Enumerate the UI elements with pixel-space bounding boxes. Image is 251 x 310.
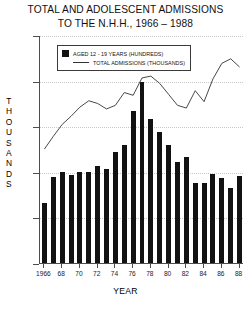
- x-tick-label: 78: [146, 270, 153, 277]
- chart-legend: AGED 12 - 19 YEARS (HUNDREDS) TOTAL ADMI…: [57, 45, 191, 71]
- y-tick-mark: [33, 127, 39, 128]
- x-tick-mark: [114, 264, 115, 268]
- y-tick-mark: [33, 82, 39, 83]
- x-tick-mark: [239, 264, 240, 268]
- y-axis-label-char: H: [3, 106, 15, 116]
- x-tick-mark: [168, 264, 169, 268]
- x-tick-mark: [61, 264, 62, 268]
- x-tick-mark: [132, 264, 133, 268]
- y-axis-label-char: U: [3, 127, 15, 137]
- x-tick-mark: [43, 264, 44, 268]
- y-axis-label-char: D: [3, 169, 15, 179]
- legend-label-line: TOTAL ADMISSIONS (THOUSANDS): [93, 60, 185, 66]
- y-axis-label-char: A: [3, 148, 15, 158]
- x-tick-label: 88: [235, 270, 242, 277]
- x-tick-mark: [221, 264, 222, 268]
- legend-label-bars: AGED 12 - 19 YEARS (HUNDREDS): [73, 51, 163, 57]
- legend-line-icon: [73, 62, 89, 63]
- x-tick-mark: [79, 264, 80, 268]
- x-tick-label: 76: [128, 270, 135, 277]
- x-tick-label: 70: [75, 270, 82, 277]
- x-tick-mark: [97, 264, 98, 268]
- x-tick-label: 72: [93, 270, 100, 277]
- y-tick-mark: [33, 36, 39, 37]
- y-axis-label: THOUSANDS: [3, 96, 15, 190]
- x-tick-mark: [203, 264, 204, 268]
- chart-figure: TOTAL AND ADOLESCENT ADMISSIONS TO THE N…: [0, 0, 251, 310]
- chart-title: TOTAL AND ADOLESCENT ADMISSIONS TO THE N…: [0, 3, 251, 31]
- x-tick-label: 80: [164, 270, 171, 277]
- x-tick-label: 84: [199, 270, 206, 277]
- y-axis-label-char: T: [3, 96, 15, 106]
- legend-entry-line: TOTAL ADMISSIONS (THOUSANDS): [62, 58, 185, 67]
- x-tick-mark: [185, 264, 186, 268]
- x-tick-label: 1966: [36, 270, 51, 277]
- legend-entry-bars: AGED 12 - 19 YEARS (HUNDREDS): [62, 49, 185, 58]
- y-axis-label-char: S: [3, 138, 15, 148]
- x-tick-label: 74: [111, 270, 118, 277]
- x-tick-mark: [150, 264, 151, 268]
- chart-title-line-2: TO THE N.H.H., 1966 – 1988: [0, 17, 251, 31]
- x-tick-label: 68: [58, 270, 65, 277]
- x-tick-label: 86: [217, 270, 224, 277]
- y-axis-label-char: S: [3, 179, 15, 189]
- chart-title-line-1: TOTAL AND ADOLESCENT ADMISSIONS: [0, 3, 251, 17]
- y-tick-mark: [33, 264, 39, 265]
- x-tick-label: 82: [182, 270, 189, 277]
- legend-square-icon: [62, 50, 69, 57]
- y-axis-label-char: N: [3, 158, 15, 168]
- y-axis-label-char: O: [3, 117, 15, 127]
- y-tick-mark: [33, 173, 39, 174]
- x-axis-label: YEAR: [0, 286, 251, 296]
- line-path: [44, 59, 239, 149]
- y-tick-mark: [33, 218, 39, 219]
